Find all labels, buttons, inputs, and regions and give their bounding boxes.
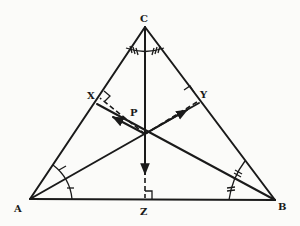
label-p: P: [130, 107, 138, 118]
right-angle-marks: [104, 86, 194, 199]
angle-arcs: [53, 48, 245, 200]
right-angle-x: [104, 91, 110, 101]
label-z: Z: [140, 206, 147, 217]
label-c: C: [140, 13, 148, 24]
arc-a: [53, 165, 72, 199]
label-a: A: [13, 203, 22, 214]
side-cb: [145, 27, 275, 200]
label-b: B: [278, 201, 286, 212]
side-ac: [30, 27, 145, 199]
label-y: Y: [199, 89, 208, 100]
perp-to-x: [100, 98, 145, 134]
label-x: X: [87, 90, 95, 101]
side-ab: [30, 199, 275, 200]
arrow-toward-x: [113, 117, 145, 134]
right-angle-z: [145, 191, 152, 199]
bisector-b: [97, 104, 275, 200]
arrow-toward-y: [145, 110, 187, 134]
triangle-diagram: C A B X Y Z P: [0, 0, 300, 226]
